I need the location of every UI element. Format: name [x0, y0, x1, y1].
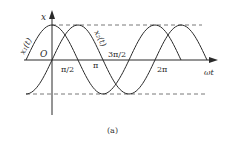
x-axis-arrow-icon	[209, 57, 218, 63]
curve-x2-label: x₂(t)	[92, 29, 108, 48]
tick-label-pi-half: π/2	[61, 65, 74, 74]
y-axis-arrow-icon	[49, 10, 55, 19]
tick-label-2pi: 2π	[157, 65, 167, 74]
figure-caption: (a)	[107, 126, 118, 135]
curve-x1-label: x₁(t)	[18, 37, 34, 56]
y-axis-label: x	[41, 12, 46, 22]
origin-label: O	[40, 49, 48, 59]
phase-diagram: x O ωt π/2 π 3π/2 2π x₁(t) x₂(t) (a)	[0, 0, 240, 144]
tick-label-3pi-half: 3π/2	[108, 50, 126, 59]
tick-label-pi: π	[93, 61, 98, 70]
x-axis-label: ωt	[204, 68, 215, 77]
